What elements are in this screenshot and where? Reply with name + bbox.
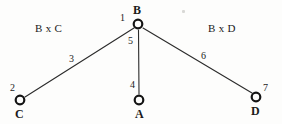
edge-b-a-number-top: 5 bbox=[128, 36, 133, 46]
node-d-label: D bbox=[251, 105, 260, 117]
region-label-bxd: B x D bbox=[208, 23, 236, 34]
node-c-number: 2 bbox=[10, 83, 15, 93]
edge-b-c-number: 3 bbox=[69, 54, 74, 64]
node-d-number: 7 bbox=[263, 83, 268, 93]
edge-b-a bbox=[139, 30, 140, 94]
node-a-label: A bbox=[135, 108, 144, 120]
diagram-canvas: B 1 5 2 C 4 A 7 D 3 6 B x C B x D bbox=[0, 0, 282, 124]
region-label-bxc: B x C bbox=[35, 23, 62, 34]
edge-b-c bbox=[25, 28, 134, 97]
node-a-circle[interactable] bbox=[135, 96, 144, 105]
node-b-circle[interactable] bbox=[134, 20, 143, 29]
node-b-label: B bbox=[133, 4, 141, 16]
node-a-number: 4 bbox=[130, 80, 135, 90]
node-b-number: 1 bbox=[120, 13, 125, 23]
node-c-label: C bbox=[15, 108, 24, 120]
diagram-edges-layer bbox=[0, 0, 282, 124]
edge-b-d bbox=[143, 28, 252, 93]
edge-b-d-number: 6 bbox=[201, 51, 206, 61]
node-c-circle[interactable] bbox=[16, 96, 25, 105]
scan-artifact-speck bbox=[182, 10, 185, 13]
node-d-circle[interactable] bbox=[252, 93, 261, 102]
